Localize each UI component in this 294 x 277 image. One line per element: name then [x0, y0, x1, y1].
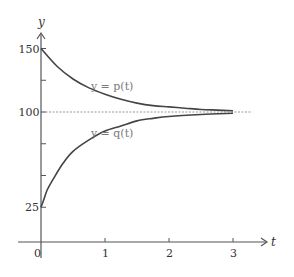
y-tick-label: 100 — [19, 106, 40, 119]
x-tick-label: 3 — [230, 247, 237, 260]
chart: ty012325100150y = p(t)y = q(t) — [0, 0, 294, 277]
axes — [18, 33, 267, 258]
curve-label-p: y = p(t) — [90, 80, 133, 93]
x-tick-label: 0 — [34, 247, 41, 260]
y-axis-label: y — [37, 15, 45, 29]
curve-q — [41, 113, 233, 207]
x-tick-label: 2 — [166, 247, 173, 260]
curve-label-q: y = q(t) — [90, 127, 133, 140]
y-tick-label: 25 — [25, 201, 39, 214]
x-axis-label: t — [271, 235, 276, 249]
x-tick-label: 1 — [102, 247, 109, 260]
labels: ty012325100150y = p(t)y = q(t) — [19, 15, 277, 260]
curves — [41, 49, 233, 208]
y-tick-label: 150 — [19, 43, 40, 56]
curve-p — [41, 49, 233, 111]
